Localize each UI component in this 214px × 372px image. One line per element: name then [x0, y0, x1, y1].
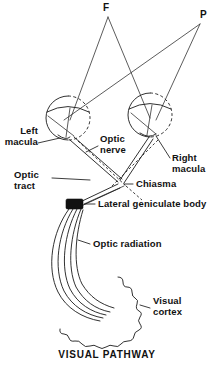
- lateral-geniculate-body: [66, 199, 83, 209]
- optic-nerve-label-line1: Optic: [100, 133, 125, 144]
- chiasma-label: Chiasma: [136, 179, 176, 190]
- visual-cortex-label: Visualcortex: [153, 296, 182, 317]
- visual-cortex-label-line1: Visual: [153, 295, 181, 306]
- visual-cortex: [60, 277, 141, 349]
- visual-cortex-label-line2: cortex: [153, 306, 182, 317]
- optic-tract-label: Optictract: [14, 170, 39, 191]
- leader-lines: [38, 136, 170, 308]
- optic-radiation-label: Optic radiation: [93, 239, 162, 250]
- right-eye: [128, 93, 172, 137]
- optic-tract-label-line1: Optic: [14, 169, 39, 180]
- visual-pathway-figure: F P Leftmacula Opticnerve Rightmacula Op…: [0, 0, 214, 372]
- peripheral-point-label: P: [200, 10, 207, 21]
- optic-nerve-label: Opticnerve: [100, 134, 126, 155]
- optic-tract-label-line2: tract: [14, 180, 35, 191]
- rays-from-peripheral-point: [64, 24, 200, 120]
- left-eye: [46, 96, 90, 140]
- fixation-point-label: F: [103, 3, 109, 14]
- right-macula-label-line1: Right: [172, 152, 197, 163]
- figure-caption: VISUAL PATHWAY: [0, 350, 214, 361]
- left-macula-label-line2: macula: [5, 136, 38, 147]
- left-macula-label-line1: Left: [20, 125, 38, 136]
- rays-from-fixation-point: [70, 17, 150, 120]
- lateral-geniculate-body-label: Lateral geniculate body: [98, 199, 206, 210]
- right-macula-label-line2: macula: [172, 163, 205, 174]
- optic-nerve-label-line2: nerve: [100, 144, 126, 155]
- right-macula-label: Rightmacula: [172, 153, 205, 174]
- optic-radiation: [52, 209, 114, 321]
- left-macula-label: Leftmacula: [0, 126, 38, 147]
